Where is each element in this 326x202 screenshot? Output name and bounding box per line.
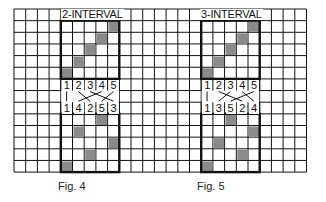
bottom-label: 5 bbox=[97, 103, 107, 114]
top-label: 1 bbox=[62, 80, 72, 91]
top-label: 4 bbox=[237, 80, 247, 91]
fig4-title: 2-INTERVAL bbox=[61, 9, 124, 20]
bottom-label: 2 bbox=[85, 103, 95, 114]
top-label: 5 bbox=[109, 80, 119, 91]
top-label: 1 bbox=[202, 80, 212, 91]
grid-diagram bbox=[0, 0, 326, 202]
top-label: 4 bbox=[97, 80, 107, 91]
top-label: 3 bbox=[226, 80, 236, 91]
top-label: 5 bbox=[249, 80, 259, 91]
bottom-label: 3 bbox=[109, 103, 119, 114]
fig5-title: 3-INTERVAL bbox=[200, 9, 263, 20]
top-label: 2 bbox=[214, 80, 224, 91]
bottom-label: 1 bbox=[202, 103, 212, 114]
fig5-caption: Fig. 5 bbox=[197, 180, 225, 192]
top-label: 2 bbox=[74, 80, 84, 91]
bottom-label: 2 bbox=[237, 103, 247, 114]
bottom-label: 4 bbox=[74, 103, 84, 114]
top-label: 3 bbox=[85, 80, 95, 91]
bottom-label: 5 bbox=[226, 103, 236, 114]
fig4-caption: Fig. 4 bbox=[58, 180, 86, 192]
bottom-label: 1 bbox=[62, 103, 72, 114]
bottom-label: 3 bbox=[214, 103, 224, 114]
bottom-label: 4 bbox=[249, 103, 259, 114]
